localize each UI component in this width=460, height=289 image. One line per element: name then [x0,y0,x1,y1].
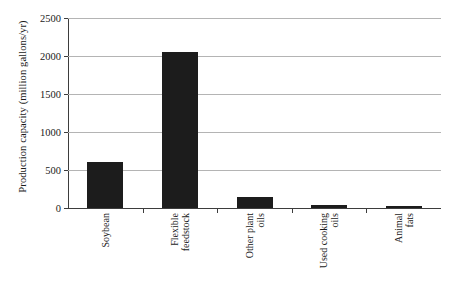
bar [87,162,123,208]
x-axis-label-line: fats [404,213,415,243]
bar [162,52,198,208]
y-axis-title: Production capacity (million gallons/yr) [10,0,34,212]
gridline [68,94,441,95]
x-axis-label: Other plantoils [218,213,292,287]
y-axis-tick-mark [64,132,68,133]
y-axis-tick-label: 1500 [40,89,61,100]
y-axis-tick-mark [64,208,68,209]
x-axis-label: Animalfats [367,213,441,287]
y-axis-tick-mark [64,18,68,19]
x-axis-label-line: Animal [393,213,404,243]
y-axis-tick-label: 2500 [40,13,61,24]
y-axis-title-text: Production capacity (million gallons/yr) [17,20,28,192]
bar [386,206,422,208]
x-axis-label: Flexiblefeedstock [143,213,217,287]
bar [311,205,347,208]
y-axis-tick-mark [64,94,68,95]
y-axis-tick-label: 0 [56,203,61,214]
y-axis-tick-label: 1000 [40,127,61,138]
y-axis-tick-label: 2000 [40,51,61,62]
gridline [68,56,441,57]
y-axis-tick-label: 500 [45,165,61,176]
x-axis-label: Used cookingoils [292,213,366,287]
x-axis-label-line: Used cooking [318,213,329,268]
x-axis-label: Soybean [68,213,142,287]
bar [237,197,273,208]
gridline [68,18,441,19]
x-axis-label-line: Soybean [100,213,111,247]
gridline [68,170,441,171]
x-axis-label-line: oils [329,213,340,268]
x-axis-labels-group: SoybeanFlexiblefeedstockOther plantoilsU… [68,213,441,289]
x-axis-line [68,208,441,209]
x-axis-label-line: oils [255,213,266,258]
y-axis-tick-mark [64,56,68,57]
x-axis-label-line: feedstock [180,213,191,251]
x-axis-label-line: Flexible [169,213,180,246]
x-axis-label-line: Other plant [244,213,255,258]
gridline [68,132,441,133]
plot-area: 05001000150020002500 [68,18,441,208]
y-axis-tick-mark [64,170,68,171]
bar-chart-figure: Production capacity (million gallons/yr)… [0,0,460,289]
